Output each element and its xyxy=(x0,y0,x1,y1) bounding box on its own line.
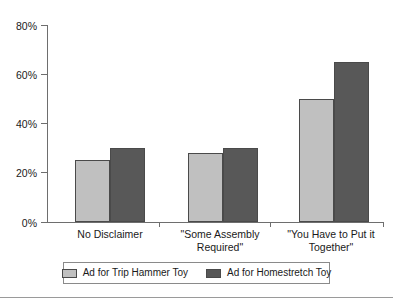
legend-swatch-homestretch-icon xyxy=(206,269,221,278)
x-axis-category-label-2: "Some Assembly Required" xyxy=(165,228,275,254)
legend-label-trip-hammer: Ad for Trip Hammer Toy xyxy=(83,268,188,278)
y-axis-tick-label-0: 0% xyxy=(22,217,37,228)
y-axis-tick-label-60: 60% xyxy=(16,69,37,80)
x-axis-separator-tick-2 xyxy=(270,222,271,227)
footer-divider xyxy=(0,297,393,298)
x-axis-category-label-3-line-2: Together" xyxy=(272,241,390,254)
bar-homestretch-no-disclaimer[interactable] xyxy=(110,148,145,222)
y-axis-tick-label-80: 80% xyxy=(16,20,37,31)
legend-label-homestretch: Ad for Homestretch Toy xyxy=(227,268,331,278)
legend-entry-trip-hammer[interactable]: Ad for Trip Hammer Toy xyxy=(62,268,188,278)
bar-homestretch-put-it-together[interactable] xyxy=(334,62,369,222)
plot-area xyxy=(47,25,384,222)
x-axis-category-label-2-line-2: Required" xyxy=(165,241,275,254)
bar-homestretch-some-assembly-required[interactable] xyxy=(223,148,258,222)
x-axis-separator-tick-1 xyxy=(159,222,160,227)
chart-legend: Ad for Trip Hammer Toy Ad for Homestretc… xyxy=(63,262,330,284)
bar-trip-hammer-put-it-together[interactable] xyxy=(299,99,334,222)
x-axis-category-label-2-line-1: "Some Assembly xyxy=(165,228,275,241)
x-axis-line xyxy=(47,222,384,223)
x-axis-category-label-3: "You Have to Put it Together" xyxy=(272,228,390,254)
y-axis-tick-label-20: 20% xyxy=(16,167,37,178)
x-axis-category-label-3-line-1: "You Have to Put it xyxy=(272,228,390,241)
x-axis-category-label-1: No Disclaimer xyxy=(55,228,165,241)
x-axis-separator-tick-3 xyxy=(383,222,384,227)
x-axis-category-label-1-line-1: No Disclaimer xyxy=(55,228,165,241)
bar-trip-hammer-no-disclaimer[interactable] xyxy=(75,160,110,222)
y-axis-tick-label-40: 40% xyxy=(16,118,37,129)
bar-chart-figure: 80% 60% 40% 20% 0% No Disclaimer " xyxy=(0,0,393,307)
bar-trip-hammer-some-assembly-required[interactable] xyxy=(188,153,223,222)
legend-entry-homestretch[interactable]: Ad for Homestretch Toy xyxy=(206,268,331,278)
legend-swatch-trip-hammer-icon xyxy=(62,269,77,278)
